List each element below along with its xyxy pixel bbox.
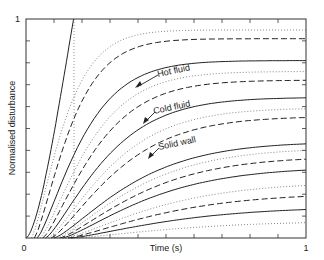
x-axis-label: Time (s) (150, 243, 183, 253)
curve-dotted (74, 223, 306, 238)
curve-dotted (48, 109, 306, 238)
y-tick-1: 1 (15, 14, 20, 24)
hot-fluid-label: Hot fluid (156, 62, 190, 79)
annotation-solid-wall: Solid wall (148, 134, 197, 159)
curve-dotted (65, 185, 306, 238)
arrowhead-icon (143, 117, 149, 124)
curve-dotted (57, 150, 306, 238)
curve-dotted (40, 72, 306, 238)
x-tick-0: 0 (21, 243, 26, 253)
curve-dashed (60, 159, 306, 238)
solid-wall-label: Solid wall (157, 134, 196, 152)
arrowhead-icon (148, 152, 154, 159)
x-tick-1: 1 (303, 243, 308, 253)
curve-solid (71, 210, 306, 239)
y-axis-label: Normalised disturbance (7, 81, 17, 176)
annotation-cold-fluid: Cold fluid (143, 98, 191, 124)
chart: 1 0 1 Time (s) Normalised disturbance Ho… (0, 0, 324, 260)
data-curves (26, 19, 306, 238)
curve-solid (26, 19, 74, 238)
arrowhead-icon (135, 81, 142, 88)
